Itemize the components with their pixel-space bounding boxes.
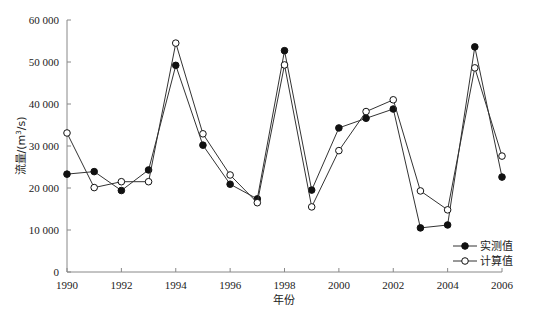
filled-circle-marker (417, 225, 424, 232)
series-measured (64, 44, 506, 232)
open-circle-marker (499, 153, 506, 160)
open-circle-marker (417, 188, 424, 195)
filled-circle-marker (499, 174, 506, 181)
open-circle-marker (64, 130, 71, 137)
filled-circle-marker (200, 142, 207, 149)
open-circle-marker (118, 178, 125, 185)
x-axis: 199019921994199619982000200220042006 (56, 268, 514, 291)
open-circle-marker (91, 184, 98, 191)
y-tick-label: 50 000 (29, 56, 60, 68)
series-group (64, 40, 506, 231)
open-circle-marker (254, 199, 261, 206)
y-tick-label: 30 000 (29, 140, 60, 152)
open-circle-marker (444, 207, 451, 214)
open-circle-marker (172, 40, 179, 47)
line-chart: 010 00020 00030 00040 00050 00060 000 19… (0, 0, 543, 316)
x-axis-title: 年份 (273, 293, 295, 307)
filled-circle-marker (363, 115, 370, 122)
x-tick-label: 2004 (437, 279, 460, 291)
filled-circle-marker (281, 47, 288, 54)
x-tick-label: 1998 (274, 279, 297, 291)
open-circle-marker (200, 131, 207, 138)
filled-circle-marker (227, 181, 234, 188)
legend-filled-marker-icon (462, 243, 469, 250)
open-circle-marker (281, 62, 288, 69)
filled-circle-marker (472, 44, 479, 51)
open-circle-marker (390, 97, 397, 104)
legend-open-marker-icon (462, 258, 469, 265)
y-tick-label: 40 000 (29, 98, 60, 110)
open-circle-marker (472, 65, 479, 72)
x-tick-label: 1996 (219, 279, 242, 291)
filled-circle-marker (64, 171, 71, 178)
open-circle-marker (363, 108, 370, 115)
x-tick-label: 2002 (382, 279, 404, 291)
open-circle-marker (227, 172, 234, 179)
y-tick-label: 20 000 (29, 182, 60, 194)
open-circle-marker (308, 204, 315, 211)
legend-label: 实测值 (480, 239, 513, 253)
x-tick-label: 1992 (110, 279, 132, 291)
x-tick-label: 1990 (56, 279, 79, 291)
series-calculated (64, 40, 506, 213)
open-circle-marker (336, 147, 343, 154)
y-axis-title: 流量/(m3/s) (14, 117, 28, 176)
open-circle-marker (145, 178, 152, 185)
y-axis: 010 00020 00030 00040 00050 00060 000 (29, 14, 71, 278)
filled-circle-marker (118, 187, 125, 194)
x-tick-label: 2006 (491, 279, 514, 291)
legend-label: 计算值 (480, 254, 513, 268)
filled-circle-marker (336, 125, 343, 132)
x-tick-label: 1994 (165, 279, 188, 291)
x-tick-label: 2000 (328, 279, 351, 291)
legend: 实测值计算值 (453, 239, 513, 268)
y-tick-label: 10 000 (29, 224, 60, 236)
filled-circle-marker (91, 168, 98, 175)
filled-circle-marker (444, 222, 451, 229)
filled-circle-marker (172, 62, 179, 69)
y-tick-label: 60 000 (29, 14, 60, 26)
y-tick-label: 0 (54, 266, 60, 278)
